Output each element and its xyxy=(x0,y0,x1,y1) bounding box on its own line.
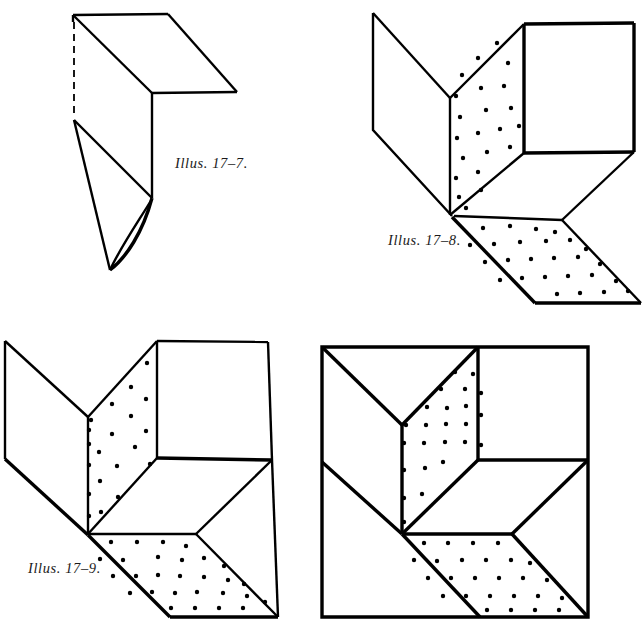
fig-17-9-right-outer-edge xyxy=(272,460,278,617)
fig-17-9-right-tab-diagonal xyxy=(196,460,272,534)
figure-17-7 xyxy=(73,14,237,270)
fig-17-10-right-square-face xyxy=(478,347,588,460)
figure-17-8 xyxy=(373,13,641,303)
fig-17-9-right-face-top-edge xyxy=(157,341,268,342)
fig-17-8-right-square-face xyxy=(524,23,634,153)
fig-17-10-floor-parallelogram-face xyxy=(402,534,588,617)
fig-17-9-left-wing-face xyxy=(5,341,88,534)
fig-17-8-right-square-bottom-edge xyxy=(524,152,634,153)
fig-17-8-right-tab-diagonal xyxy=(562,152,634,220)
fig-17-8-left-wing-face xyxy=(373,13,450,215)
fig-17-9-center-panel-face xyxy=(88,341,157,534)
fig-17-10-right-tab-diagonal xyxy=(512,460,588,534)
figure-17-10 xyxy=(322,347,588,617)
caption-illus-17-9: Illus. 17–9. xyxy=(28,560,101,577)
fig-17-9-floor-parallelogram-face xyxy=(88,534,278,617)
fig-17-9-right-face-bottom-edge xyxy=(157,458,272,460)
figure-plate: Illus. 17–7. Illus. 17–8. Illus. 17–9. xyxy=(0,0,643,631)
fig-17-7-top-flap-face xyxy=(73,14,237,93)
plate-drawing xyxy=(0,0,643,631)
fig-17-8-center-panel-face xyxy=(450,24,524,215)
fig-17-7-lower-panel-face xyxy=(74,120,152,270)
fig-17-7-edge-flap-bottom xyxy=(152,92,237,93)
fig-17-9-right-square-face xyxy=(157,341,272,460)
fig-17-8-right-square-top-edge xyxy=(524,23,634,24)
caption-illus-17-8: Illus. 17–8. xyxy=(388,232,461,249)
fig-17-7-edge-top xyxy=(73,14,168,15)
caption-illus-17-7: Illus. 17–7. xyxy=(175,155,248,172)
